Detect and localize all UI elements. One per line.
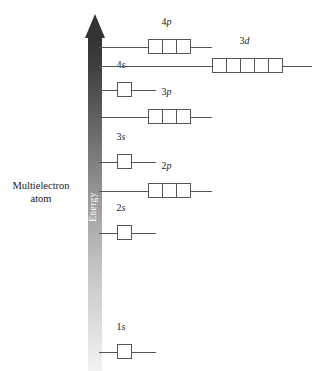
orbital-label-2s: 2s (117, 202, 126, 213)
orbital-label-4p: 4p (162, 16, 172, 27)
orbital-box (148, 109, 163, 124)
orbital-box (117, 225, 132, 240)
orbital-box (117, 344, 132, 359)
orbital-label-letter: s (122, 202, 126, 213)
energy-axis-arrow: Energy (85, 14, 105, 371)
orbital-boxes-3d: 3d (212, 58, 283, 73)
orbital-box (148, 183, 163, 198)
orbital-boxes-3p: 3p (148, 109, 191, 124)
orbital-label-3s: 3s (117, 131, 126, 142)
orbital-label-2p: 2p (162, 160, 172, 171)
orbital-box (176, 183, 191, 198)
orbital-box (162, 109, 177, 124)
atom-caption: Multielectron atom (2, 180, 80, 205)
orbital-label-3d: 3d (240, 35, 250, 46)
orbital-label-letter: s (122, 59, 126, 70)
orbital-box (176, 109, 191, 124)
orbital-box (117, 82, 132, 97)
orbital-box (240, 58, 255, 73)
orbital-box (117, 154, 132, 169)
orbital-box (226, 58, 241, 73)
orbital-box (254, 58, 269, 73)
arrow-head-icon (85, 14, 105, 38)
orbital-label-1s: 1s (117, 321, 126, 332)
orbital-boxes-4s: 4s (117, 82, 132, 97)
orbital-label-letter: p (167, 86, 172, 97)
orbital-box (162, 183, 177, 198)
orbital-label-letter: p (167, 160, 172, 171)
orbital-boxes-2s: 2s (117, 225, 132, 240)
orbital-boxes-4p: 4p (148, 39, 191, 54)
orbital-box (148, 39, 163, 54)
orbital-label-letter: p (167, 16, 172, 27)
atom-caption-line2: atom (2, 193, 80, 206)
orbital-label-letter: s (122, 131, 126, 142)
orbital-box (162, 39, 177, 54)
orbital-label-3p: 3p (162, 86, 172, 97)
orbital-label-4s: 4s (117, 59, 126, 70)
energy-axis-label: Energy (88, 181, 98, 233)
orbital-label-letter: s (122, 321, 126, 332)
orbital-label-letter: d (245, 35, 250, 46)
orbital-boxes-2p: 2p (148, 183, 191, 198)
orbital-energy-diagram: Energy Multielectron atom 1s2s2p3s3p4s3d… (0, 0, 323, 371)
orbital-box (176, 39, 191, 54)
orbital-boxes-1s: 1s (117, 344, 132, 359)
orbital-box (268, 58, 283, 73)
orbital-boxes-3s: 3s (117, 154, 132, 169)
orbital-box (212, 58, 227, 73)
atom-caption-line1: Multielectron (2, 180, 80, 193)
